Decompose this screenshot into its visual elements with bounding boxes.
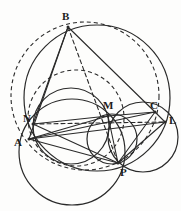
point-label-m: M — [103, 100, 113, 111]
vertex-l — [164, 121, 167, 124]
point-label-a: A — [14, 137, 22, 148]
vertex-p — [117, 162, 120, 165]
geometry-figure: BNAMCLP — [0, 0, 181, 211]
vertex-m — [107, 115, 110, 118]
point-label-l: L — [169, 115, 176, 126]
segment-p-l — [118, 122, 165, 163]
point-label-p: P — [120, 167, 127, 178]
point-label-b: B — [62, 11, 69, 22]
vertex-n — [32, 123, 35, 126]
point-label-c: C — [150, 100, 158, 111]
circles-layer — [11, 22, 178, 205]
vertex-b — [67, 26, 70, 29]
segment-b-p — [68, 27, 118, 163]
vertex-a — [28, 138, 31, 141]
point-label-n: N — [23, 113, 31, 124]
